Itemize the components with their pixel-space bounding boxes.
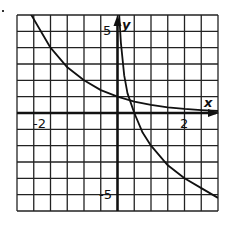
x-tick-label-2: 2 — [180, 117, 188, 130]
x-axis-label: x — [204, 96, 212, 109]
y-tick-label-5: 5 — [103, 24, 111, 37]
x-tick-label-neg2: -2 — [33, 117, 46, 130]
y-axis-label: y — [122, 18, 130, 31]
graph — [0, 0, 229, 225]
y-tick-label-neg5: -5 — [99, 188, 112, 201]
